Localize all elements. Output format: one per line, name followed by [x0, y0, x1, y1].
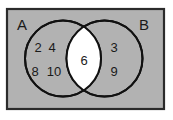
set-a-only-element: 2 — [34, 40, 41, 55]
set-a-label: A — [17, 16, 27, 33]
set-a-only-element: 4 — [48, 40, 55, 55]
set-b-only-element: 3 — [110, 40, 117, 55]
set-a-only-element: 10 — [47, 64, 61, 79]
set-b-label: B — [139, 16, 149, 33]
set-b-only-element: 9 — [110, 64, 117, 79]
set-a-only-element: 8 — [31, 64, 38, 79]
intersection-element: 6 — [80, 53, 87, 68]
venn-diagram-svg: A B 2 4 8 10 6 3 9 — [0, 0, 173, 120]
venn-diagram-canvas: A B 2 4 8 10 6 3 9 — [0, 0, 173, 120]
